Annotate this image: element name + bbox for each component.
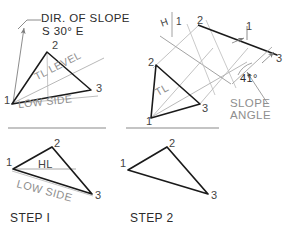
vertex-label-3-step-one: 3 — [95, 190, 102, 201]
slope-direction-arrow-icon — [13, 28, 24, 103]
reference-line-H1 — [160, 36, 231, 84]
edge-view-label-1: 1 — [246, 21, 253, 32]
edge-view-label-2: 2 — [197, 15, 204, 26]
edge-view-line — [198, 25, 277, 55]
horizontal-line-label: HL — [38, 159, 53, 170]
vertex-label-3-top-left: 3 — [96, 83, 103, 94]
dir-of-slope-label: DIR. OF SLOPE — [41, 13, 130, 25]
vertex-label-3-plan-right: 3 — [202, 103, 209, 114]
vertex-label-1-top-left: 1 — [4, 95, 11, 106]
vertex-label-1-step-one: 1 — [6, 157, 13, 168]
technical-drawing-canvas: DIR. OF SLOPE S 30° E TL LEVEL LOW SIDE … — [0, 0, 293, 235]
projector-vertex-2 — [153, 25, 199, 68]
projector-cross-a — [187, 24, 215, 95]
vertex-label-1-plan-right: 1 — [146, 116, 153, 127]
bearing-label: S 30° E — [42, 26, 84, 38]
bottom-right-panel — [128, 147, 208, 194]
vertex-label-2-step-two: 2 — [169, 138, 176, 149]
vertex-label-3-step-two: 3 — [211, 190, 218, 201]
triangle-step-two — [128, 147, 208, 194]
step-one-label: STEP I — [10, 212, 50, 224]
angle-value-label: 41° — [240, 73, 258, 84]
reference-line-1-label: 1 — [176, 17, 182, 27]
edge-view-end-arrow-icon — [262, 52, 274, 63]
vertex-label-2-plan-right: 2 — [148, 57, 155, 68]
vertex-label-2-top-left: 2 — [52, 40, 59, 51]
vertex-label-1-step-two: 1 — [120, 158, 127, 169]
edge-view-label-3: 3 — [276, 53, 283, 64]
slope-angle-label-line2: ANGLE — [230, 110, 271, 122]
leader-line — [18, 20, 41, 29]
vertex-label-2-step-one: 2 — [54, 138, 61, 149]
step-two-label: STEP 2 — [130, 212, 174, 224]
slope-angle-label-line1: SLOPE — [230, 98, 270, 110]
